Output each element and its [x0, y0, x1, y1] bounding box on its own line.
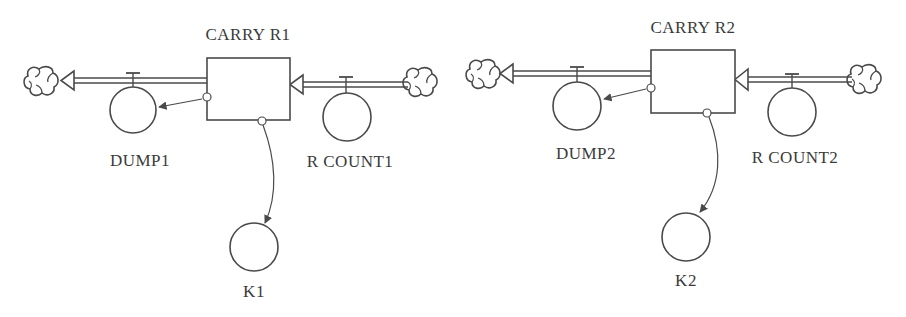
- connector-arrow[interactable]: [604, 89, 646, 99]
- auxiliary-label: K1: [243, 282, 265, 301]
- inflow-pipe[interactable]: [735, 69, 852, 90]
- stock-label: CARRY R2: [650, 18, 735, 37]
- flow-arrowhead-icon: [735, 69, 748, 90]
- inflow-label: R COUNT2: [752, 148, 839, 167]
- valve-dump1[interactable]: [110, 73, 156, 133]
- cloud-source-icon: [847, 65, 881, 94]
- flow-arrowhead-icon: [500, 64, 513, 83]
- flow-rate-circle[interactable]: [553, 82, 601, 130]
- stock-label: CARRY R1: [205, 25, 290, 44]
- flow-arrowhead-icon: [290, 75, 303, 94]
- flow-rate-circle[interactable]: [110, 87, 156, 133]
- connector-handle[interactable]: [203, 93, 211, 101]
- cloud-sink-icon: [24, 67, 58, 96]
- stock-box[interactable]: [651, 50, 735, 113]
- auxiliary-circle[interactable]: [230, 223, 278, 271]
- connector-handle[interactable]: [647, 84, 655, 92]
- auxiliary-circle[interactable]: [662, 213, 710, 261]
- connector-handle[interactable]: [258, 117, 266, 125]
- connector-arrow[interactable]: [159, 99, 202, 107]
- cloud-sink-icon: [466, 60, 500, 89]
- flow-rate-circle[interactable]: [768, 88, 816, 136]
- flow-arrowhead-icon: [61, 71, 74, 90]
- model-1: CARRY R1 DUMP1 R COUNT1: [24, 25, 437, 301]
- stock-box[interactable]: [207, 58, 290, 120]
- stock-flow-diagram: CARRY R1 DUMP1 R COUNT1: [0, 0, 906, 317]
- outflow-label: DUMP1: [110, 151, 170, 170]
- connector-handle[interactable]: [703, 109, 711, 117]
- auxiliary-label: K2: [675, 271, 697, 290]
- connector-arrow[interactable]: [263, 125, 274, 223]
- outflow-label: DUMP2: [556, 144, 616, 163]
- connector-arrow[interactable]: [700, 117, 718, 212]
- inflow-label: R COUNT1: [307, 152, 394, 171]
- cloud-source-icon: [403, 68, 437, 97]
- valve-rcount2[interactable]: [768, 74, 816, 136]
- flow-rate-circle[interactable]: [323, 93, 371, 141]
- model-2: CARRY R2 DUMP2 R COUNT2: [466, 18, 881, 290]
